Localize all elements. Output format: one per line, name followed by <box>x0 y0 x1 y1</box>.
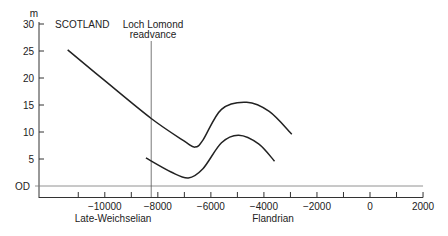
x-tick-label: 2000 <box>412 201 435 212</box>
period-label-left: Late-Weichselian <box>75 213 152 224</box>
upper-curve <box>68 50 292 147</box>
sea-level-chart: 30252015105OD−10000−8000−6000−4000−20000… <box>0 0 448 236</box>
y-tick-label-od: OD <box>15 181 30 192</box>
annotation-line2: readvance <box>130 29 177 40</box>
y-tick-label: 25 <box>23 46 35 57</box>
x-tick-label: −2000 <box>303 201 332 212</box>
x-tick-label: −6000 <box>197 201 226 212</box>
x-tick-label: 0 <box>367 201 373 212</box>
y-tick-label: 30 <box>23 19 35 30</box>
x-tick-label: −10000 <box>88 201 122 212</box>
chart-title: SCOTLAND <box>55 19 109 30</box>
x-tick-label: −4000 <box>250 201 279 212</box>
axes: 30252015105OD−10000−8000−6000−4000−20000… <box>15 19 435 213</box>
period-label-right: Flandrian <box>252 213 294 224</box>
y-tick-label: 10 <box>23 127 35 138</box>
y-unit-label: m <box>30 8 38 19</box>
y-tick-label: 20 <box>23 73 35 84</box>
lower-curve <box>146 135 275 178</box>
series <box>68 50 292 178</box>
x-tick-label: −8000 <box>144 201 173 212</box>
y-tick-label: 5 <box>28 154 34 165</box>
y-tick-label: 15 <box>23 100 35 111</box>
